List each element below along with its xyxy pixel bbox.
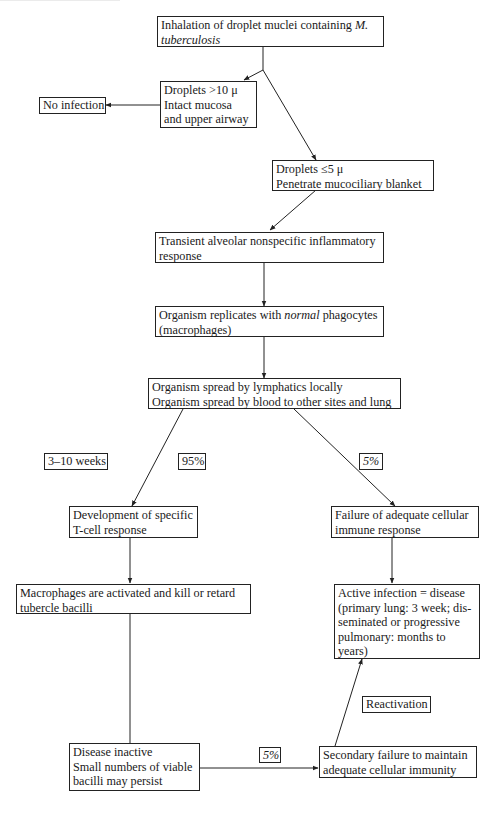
node-inhalation: Inhalation of droplet muclei containing … xyxy=(157,16,384,47)
label-time-text: 3–10 weeks xyxy=(48,454,106,468)
node-active-line5: years) xyxy=(338,644,476,659)
node-spread-line1: Organism spread by lymphatics locally xyxy=(152,380,397,395)
node-small-droplets: Droplets ≤5 μ Penetrate mucociliary blan… xyxy=(272,160,434,191)
label-95-text: 95% xyxy=(182,454,204,468)
label-5-percent-failure: 5% xyxy=(359,453,383,470)
node-replication: Organism replicates with normal phagocyt… xyxy=(155,306,384,337)
node-tcell-line1: Development of specific xyxy=(73,508,194,523)
node-failure-line1: Failure of adequate cellular xyxy=(335,508,475,523)
node-inhalation-line2: tuberculosis xyxy=(161,33,380,48)
node-replication-italic: normal xyxy=(284,308,319,322)
edge-to-small-droplets xyxy=(263,70,316,160)
node-replication-pre: Organism replicates with xyxy=(159,308,284,322)
node-macrophages-line2: tubercle bacilli xyxy=(20,601,247,616)
node-inhalation-text: Inhalation of droplet muclei containing xyxy=(161,18,355,32)
node-transient-line1: Transient alveolar nonspecific inflammat… xyxy=(159,234,380,249)
node-macrophages-line1: Macrophages are activated and kill or re… xyxy=(20,586,247,601)
node-active-infection: Active infection = disease (primary lung… xyxy=(334,584,480,659)
label-5-secondary-text: 5% xyxy=(263,748,279,762)
node-replication-post: phagocytes xyxy=(320,308,378,322)
node-transient-response: Transient alveolar nonspecific inflammat… xyxy=(155,232,384,263)
node-inactive-line3: bacilli may persist xyxy=(73,774,196,789)
node-macrophages-activated: Macrophages are activated and kill or re… xyxy=(16,584,251,614)
label-reactivation: Reactivation xyxy=(362,696,431,713)
node-no-infection-text: No infection xyxy=(43,98,104,112)
node-active-line3: seminated or progressive xyxy=(338,615,476,630)
node-active-line4: pulmonary: months to xyxy=(338,630,476,645)
node-large-droplets: Droplets >10 μ Intact mucosa and upper a… xyxy=(160,81,257,128)
node-small-droplets-line1: Droplets ≤5 μ xyxy=(276,162,430,177)
edge-to-large-droplets xyxy=(244,70,263,80)
node-inactive-line2: Small numbers of viable xyxy=(73,760,196,775)
node-large-droplets-line1: Droplets >10 μ xyxy=(164,83,253,98)
node-inactive-line1: Disease inactive xyxy=(73,745,196,760)
label-5-failure-text: 5% xyxy=(363,454,379,468)
node-large-droplets-line2: Intact mucosa xyxy=(164,98,253,113)
node-inhalation-italic: M. xyxy=(355,18,368,32)
node-secondary-line2: adequate cellular immunity xyxy=(323,763,473,778)
edge-reactivation xyxy=(335,659,362,746)
edge-to-transient xyxy=(270,190,316,230)
node-tcell-response: Development of specific T-cell response xyxy=(69,506,198,538)
node-no-infection: No infection xyxy=(39,97,106,114)
node-active-line2: (primary lung: 3 week; dis- xyxy=(338,601,476,616)
label-95-percent: 95% xyxy=(178,453,206,470)
edge-to-tcell xyxy=(132,409,183,506)
node-active-line1: Active infection = disease xyxy=(338,586,476,601)
label-time-3-10-weeks: 3–10 weeks xyxy=(44,453,108,470)
node-disease-inactive: Disease inactive Small numbers of viable… xyxy=(69,743,200,791)
node-transient-line2: response xyxy=(159,249,380,264)
label-reactivation-text: Reactivation xyxy=(366,697,428,711)
node-replication-line2: (macrophages) xyxy=(159,323,380,338)
node-failure-line2: immune response xyxy=(335,523,475,538)
node-spread-line2: Organism spread by blood to other sites … xyxy=(152,395,397,410)
node-spread: Organism spread by lymphatics locally Or… xyxy=(148,378,401,409)
node-large-droplets-line3: and upper airway xyxy=(164,112,253,127)
label-5-percent-secondary: 5% xyxy=(259,747,281,763)
node-secondary-line1: Secondary failure to maintain xyxy=(323,748,473,763)
node-secondary-failure: Secondary failure to maintain adequate c… xyxy=(319,746,477,778)
node-failure-immune: Failure of adequate cellular immune resp… xyxy=(331,506,479,538)
node-tcell-line2: T-cell response xyxy=(73,523,194,538)
node-small-droplets-line2: Penetrate mucociliary blanket xyxy=(276,177,430,192)
